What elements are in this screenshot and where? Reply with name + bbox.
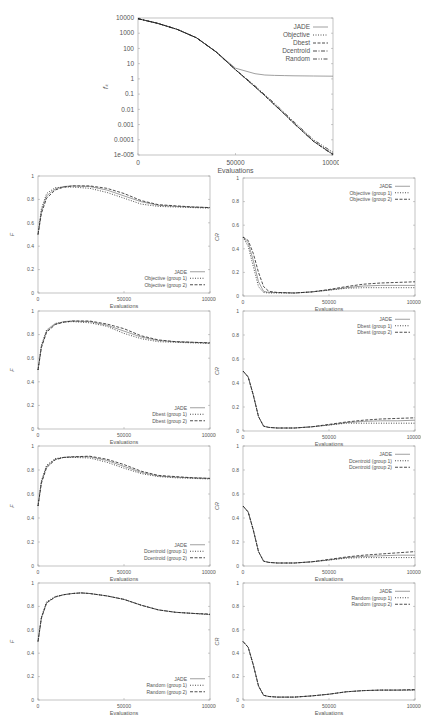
y-tick-label: 0.2 bbox=[27, 266, 34, 272]
series-line-random-group-1- bbox=[243, 642, 415, 698]
y-tick-label: 0.8 bbox=[232, 467, 239, 473]
series-line-jade bbox=[243, 371, 415, 428]
y-tick-label: 0.6 bbox=[232, 491, 239, 497]
x-tick-label: 50000 bbox=[117, 703, 131, 709]
y-axis-label: F bbox=[9, 368, 15, 372]
x-tick-label: 50000 bbox=[117, 432, 131, 438]
y-tick-label: 10 bbox=[127, 60, 135, 67]
y-tick-label: 1 bbox=[130, 75, 134, 82]
y-axis-label: CR bbox=[214, 233, 220, 241]
y-tick-label: 0 bbox=[31, 290, 34, 296]
y-tick-label: 0.4 bbox=[27, 243, 34, 249]
legend-label: JADE bbox=[174, 676, 187, 682]
chart-panel-F-dbest: 00.20.40.60.81050000100000EvaluationsFJA… bbox=[0, 307, 216, 455]
legend: JADEDbest (group 1)Dbest (group 2) bbox=[152, 405, 205, 424]
legend-label: JADE bbox=[174, 405, 187, 411]
chart-panel-F-dcentroid: 00.20.40.60.81050000100000EvaluationsFJA… bbox=[0, 442, 216, 592]
chart-panel-CR-dbest: 00.20.40.60.81050000100000EvaluationsCRJ… bbox=[203, 307, 421, 457]
y-tick-label: 0.0001 bbox=[114, 136, 134, 143]
y-tick-label: 0.2 bbox=[232, 673, 239, 679]
series-line-dcentroid-group-1- bbox=[38, 457, 210, 506]
chart-panel-CR-objective: 00.20.40.60.81050000100000EvaluationsCRJ… bbox=[203, 174, 421, 322]
y-tick-label: 0.4 bbox=[232, 380, 239, 386]
series-line-dcentroid-group-2- bbox=[38, 456, 210, 506]
legend-label: Dbest bbox=[293, 39, 310, 46]
series-line-objective-group-1- bbox=[243, 237, 415, 293]
y-axis-label: F bbox=[9, 232, 15, 236]
y-tick-label: 0.2 bbox=[232, 269, 239, 275]
legend-label: Objective (group 1) bbox=[144, 275, 187, 281]
y-tick-label: 0 bbox=[236, 563, 239, 569]
y-tick-label: 1000 bbox=[120, 29, 135, 36]
y-tick-label: 0.4 bbox=[27, 515, 34, 521]
legend-label: JADE bbox=[174, 269, 187, 275]
y-axis-label: F bbox=[9, 639, 15, 643]
y-tick-label: 0.2 bbox=[27, 539, 34, 545]
series-line-dbest-group-1- bbox=[243, 371, 415, 428]
y-axis-label: CR bbox=[214, 638, 220, 646]
series-line-dbest-group-1- bbox=[38, 322, 210, 370]
y-tick-label: 0.6 bbox=[232, 627, 239, 633]
legend: JADEObjectiveDbestDcentroidRandom bbox=[282, 23, 328, 62]
legend-label: Random (group 2) bbox=[351, 601, 392, 607]
y-tick-label: 1 bbox=[236, 443, 239, 449]
x-tick-label: 0 bbox=[242, 299, 245, 305]
legend: JADEObjective (group 1)Objective (group … bbox=[144, 269, 205, 288]
y-tick-label: 0.4 bbox=[27, 379, 34, 385]
legend: JADEObjective (group 1)Objective (group … bbox=[349, 183, 410, 202]
y-tick-label: 0.6 bbox=[27, 627, 34, 633]
legend-label: JADE bbox=[174, 542, 187, 548]
y-tick-label: 0.6 bbox=[27, 491, 34, 497]
legend-label: Objective (group 2) bbox=[144, 282, 187, 288]
y-tick-label: 1 bbox=[236, 308, 239, 314]
y-tick-label: 0 bbox=[236, 293, 239, 299]
x-tick-label: 100000 bbox=[407, 569, 421, 575]
x-tick-label: 100000 bbox=[407, 703, 421, 709]
series-line-jade bbox=[38, 321, 210, 370]
x-tick-label: 100000 bbox=[407, 434, 421, 440]
legend-label: JADE bbox=[379, 588, 392, 594]
x-tick-label: 50000 bbox=[117, 569, 131, 575]
series-line-jade bbox=[38, 457, 210, 506]
y-tick-label: 0.8 bbox=[232, 198, 239, 204]
y-tick-label: 0.8 bbox=[232, 603, 239, 609]
x-tick-label: 0 bbox=[242, 434, 245, 440]
y-tick-label: 10000 bbox=[116, 14, 134, 21]
y-tick-label: 1 bbox=[236, 580, 239, 586]
y-tick-label: 1e-005 bbox=[114, 151, 135, 158]
legend-label: Dcentroid (group 1) bbox=[349, 458, 392, 464]
y-tick-label: 0 bbox=[31, 563, 34, 569]
y-tick-label: 1 bbox=[236, 175, 239, 181]
y-tick-label: 0 bbox=[236, 697, 239, 703]
x-tick-label: 0 bbox=[37, 569, 40, 575]
x-tick-label: 0 bbox=[242, 703, 245, 709]
x-tick-label: 100000 bbox=[322, 159, 339, 166]
x-tick-label: 50000 bbox=[322, 703, 336, 709]
legend-label: JADE bbox=[293, 23, 310, 30]
legend-label: Dbest (group 2) bbox=[357, 329, 392, 335]
chart-panel-F-objective: 00.20.40.60.81050000100000EvaluationsFJA… bbox=[0, 172, 216, 319]
x-tick-label: 0 bbox=[37, 703, 40, 709]
y-tick-label: 0 bbox=[31, 426, 34, 432]
y-tick-label: 1 bbox=[31, 308, 34, 314]
series-line-random-group-2- bbox=[243, 642, 415, 698]
legend-label: Random (group 2) bbox=[146, 689, 187, 695]
y-tick-label: 0.6 bbox=[232, 222, 239, 228]
chart-panel-CR-dcentroid: 00.20.40.60.81050000100000EvaluationsCRJ… bbox=[203, 442, 421, 592]
y-tick-label: 0.8 bbox=[27, 331, 34, 337]
legend-label: Dcentroid bbox=[282, 47, 310, 54]
y-tick-label: 0.2 bbox=[232, 539, 239, 545]
legend-label: Dcentroid (group 2) bbox=[349, 464, 392, 470]
y-tick-label: 0.8 bbox=[27, 467, 34, 473]
y-tick-label: 0.6 bbox=[232, 356, 239, 362]
legend: JADEDcentroid (group 1)Dcentroid (group … bbox=[349, 451, 410, 470]
x-tick-label: 100000 bbox=[407, 299, 421, 305]
y-tick-label: 0.1 bbox=[125, 90, 134, 97]
legend-label: JADE bbox=[379, 316, 392, 322]
y-tick-label: 1 bbox=[31, 580, 34, 586]
legend: JADEDbest (group 1)Dbest (group 2) bbox=[357, 316, 410, 335]
legend-label: JADE bbox=[379, 183, 392, 189]
legend-label: Objective (group 2) bbox=[349, 196, 392, 202]
series-line-random-group-1- bbox=[38, 593, 210, 642]
legend: JADERandom (group 1)Random (group 2) bbox=[146, 676, 205, 695]
